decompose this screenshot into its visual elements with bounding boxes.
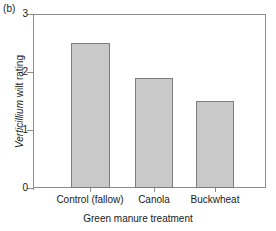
x-tick-label-control-fallow: Control (fallow) (35, 194, 145, 206)
x-tick-label-canola: Canola (114, 194, 194, 206)
x-tick-control-fallow (90, 188, 91, 192)
y-tick-label-2: 2 (16, 67, 28, 77)
y-tick-label-1: 1 (16, 125, 28, 135)
figure-panel-b: (b) 3 2 1 0 Verticillium wilt rating Con… (0, 0, 276, 231)
y-tick-label-3: 3 (16, 9, 28, 19)
panel-label: (b) (3, 3, 16, 15)
x-axis-title: Green manure treatment (0, 213, 276, 225)
bar-canola[interactable] (135, 78, 173, 188)
y-axis-title: Verticillium wilt rating (14, 32, 25, 172)
bars-layer (33, 14, 266, 188)
y-axis-title-rest: wilt rating (14, 55, 25, 100)
bar-buckwheat[interactable] (196, 101, 234, 188)
x-tick-canola (154, 188, 155, 192)
x-tick-label-buckwheat: Buckwheat (172, 194, 258, 206)
bar-control-fallow[interactable] (71, 43, 110, 188)
y-tick-label-0: 0 (16, 183, 28, 193)
x-tick-buckwheat (215, 188, 216, 192)
y-axis-title-species: Verticillium (14, 100, 25, 148)
